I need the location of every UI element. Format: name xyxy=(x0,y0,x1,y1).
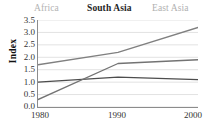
legend-item-south-asia[interactable]: South Asia xyxy=(87,1,132,15)
y-tick-label: 3.5 xyxy=(9,16,35,25)
y-tick-label: 1.0 xyxy=(9,78,35,87)
plot-svg xyxy=(38,20,198,107)
y-axis-tick-labels: 3.5 3.0 2.5 2.0 1.5 1.0 0.5 0.0 xyxy=(9,0,35,123)
legend-item-africa[interactable]: Africa xyxy=(34,1,59,15)
x-tick-label: 1980 xyxy=(17,109,63,121)
y-tick-label: 0.5 xyxy=(9,90,35,99)
data-series-group xyxy=(38,27,198,99)
x-axis-tick-labels: 1980 1990 2000 xyxy=(37,109,199,123)
series-line-south-asia xyxy=(38,59,198,99)
chart-legend: Africa South Asia East Asia xyxy=(30,1,202,16)
y-tick-label: 2.5 xyxy=(9,40,35,49)
plot-area xyxy=(37,20,198,108)
x-tick-label: 2000 xyxy=(170,109,205,121)
legend-item-east-asia[interactable]: East Asia xyxy=(152,1,189,15)
y-tick-label: 1.5 xyxy=(9,65,35,74)
series-line-east-asia xyxy=(38,27,198,64)
line-chart: Africa South Asia East Asia Index 3.5 3.… xyxy=(0,0,205,123)
y-tick-label: 2.0 xyxy=(9,53,35,62)
series-line-africa xyxy=(38,77,198,82)
x-tick-label: 1990 xyxy=(94,109,140,121)
y-tick-label: 3.0 xyxy=(9,28,35,37)
